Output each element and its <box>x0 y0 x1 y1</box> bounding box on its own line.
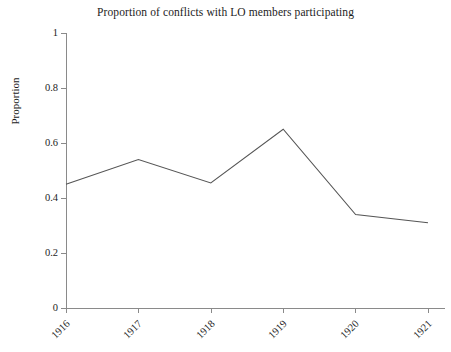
chart-container: Proportion of conflicts with LO members … <box>0 0 451 352</box>
y-tick-label-0: 0 <box>24 302 58 313</box>
line-series-proportion <box>66 129 428 223</box>
x-axis <box>66 308 445 313</box>
y-tick-label-0-4: 0.4 <box>24 192 58 203</box>
y-tick-label-0-2: 0.2 <box>24 247 58 258</box>
plot-area <box>0 0 451 352</box>
y-axis <box>61 33 66 308</box>
y-tick-label-1: 1 <box>24 27 58 38</box>
y-tick-label-0-8: 0.8 <box>24 82 58 93</box>
data-series-proportion <box>66 129 428 223</box>
y-tick-label-0-6: 0.6 <box>24 137 58 148</box>
